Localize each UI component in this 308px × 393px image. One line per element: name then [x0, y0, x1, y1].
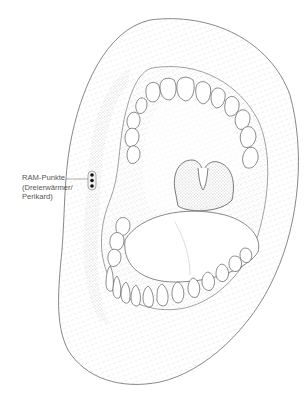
label-line-2: (Dreierwärmer/	[22, 183, 73, 193]
label-line-3: Perikard)	[22, 192, 73, 202]
label-line-1: RAM-Punkte	[22, 173, 73, 183]
ram-point-3	[90, 184, 94, 188]
ram-points-label: RAM-Punkte (Dreierwärmer/ Perikard)	[22, 173, 73, 202]
ram-points-marker	[88, 171, 96, 190]
ram-point-1	[90, 173, 94, 177]
ram-point-2	[90, 179, 94, 183]
